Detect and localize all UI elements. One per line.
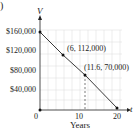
- origin-point: [39, 109, 42, 112]
- point-annotation: (6, 112,000): [67, 44, 106, 53]
- y-tick-label: $160,000: [6, 27, 36, 36]
- x-tick-label: 20: [113, 112, 121, 121]
- y-axis-var: V: [37, 6, 43, 16]
- x-axis-title: Years: [70, 120, 90, 130]
- y-tick-label: $40,000: [10, 85, 36, 94]
- data-point: [84, 74, 87, 77]
- data-point: [116, 107, 119, 110]
- y-tick-label: $80,000: [10, 66, 36, 75]
- data-point: [39, 31, 42, 34]
- y-tick-label: $120,000: [6, 46, 36, 55]
- x-axis-var: t: [130, 104, 133, 114]
- point-annotation: (11.6, 70,000): [84, 63, 129, 72]
- data-point: [62, 54, 65, 57]
- x-tick-label: 0: [34, 112, 38, 121]
